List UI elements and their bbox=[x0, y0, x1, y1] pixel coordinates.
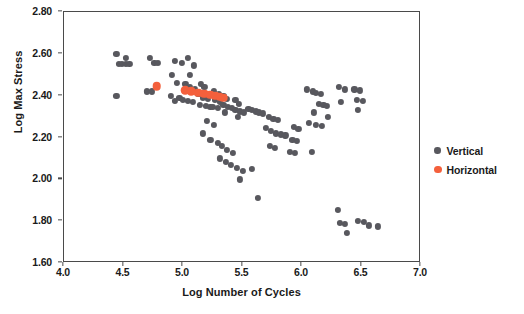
x-tick-mark bbox=[62, 262, 63, 266]
legend-label: Horizontal bbox=[447, 164, 497, 176]
data-point-vertical bbox=[249, 166, 255, 172]
data-point-vertical bbox=[360, 98, 366, 104]
data-point-vertical bbox=[295, 126, 301, 132]
data-point-vertical bbox=[191, 62, 197, 68]
data-point-vertical bbox=[275, 117, 281, 123]
x-tick-label: 4.0 bbox=[56, 266, 70, 278]
data-point-vertical bbox=[172, 58, 178, 64]
x-tick-mark bbox=[122, 262, 123, 266]
data-point-vertical bbox=[311, 109, 317, 115]
data-point-vertical bbox=[344, 230, 350, 236]
data-point-vertical bbox=[294, 138, 300, 144]
data-point-vertical bbox=[306, 120, 312, 126]
data-point-vertical bbox=[155, 60, 161, 66]
data-point-vertical bbox=[239, 168, 245, 174]
data-point-vertical bbox=[172, 98, 178, 104]
data-point-vertical bbox=[325, 113, 331, 119]
data-point-vertical bbox=[342, 86, 348, 92]
legend-marker-icon bbox=[434, 147, 441, 154]
data-point-vertical bbox=[204, 118, 210, 124]
data-point-vertical bbox=[355, 107, 361, 113]
data-point-vertical bbox=[235, 113, 241, 119]
data-point-vertical bbox=[292, 150, 298, 156]
y-axis-title: Log Max Stress bbox=[12, 22, 24, 162]
data-point-vertical bbox=[222, 109, 228, 115]
x-tick-mark bbox=[419, 262, 420, 266]
x-tick-label: 4.5 bbox=[116, 266, 130, 278]
data-point-vertical bbox=[189, 99, 195, 105]
x-tick-mark bbox=[300, 262, 301, 266]
y-tick-label: 2.60 bbox=[32, 47, 52, 59]
data-point-vertical bbox=[207, 136, 213, 142]
data-point-vertical bbox=[126, 61, 132, 67]
x-tick-label: 6.0 bbox=[294, 266, 308, 278]
data-point-horizontal bbox=[219, 93, 228, 102]
data-point-vertical bbox=[338, 99, 344, 105]
data-point-vertical bbox=[123, 55, 129, 61]
data-point-vertical bbox=[185, 55, 191, 61]
x-axis-tick-labels: 4.04.55.05.56.06.57.0 bbox=[0, 266, 524, 286]
data-point-vertical bbox=[255, 195, 261, 201]
y-tick-mark bbox=[58, 136, 62, 137]
x-tick-mark bbox=[360, 262, 361, 266]
data-point-vertical bbox=[335, 207, 341, 213]
chart-legend: VerticalHorizontal bbox=[434, 141, 497, 179]
scatter-chart: 1.601.802.002.202.402.602.80 Log Max Str… bbox=[0, 0, 524, 314]
data-point-vertical bbox=[237, 176, 243, 182]
data-point-vertical bbox=[272, 145, 278, 151]
x-tick-label: 5.5 bbox=[235, 266, 249, 278]
y-tick-mark bbox=[58, 52, 62, 53]
data-point-vertical bbox=[282, 132, 288, 138]
x-tick-mark bbox=[241, 262, 242, 266]
data-point-vertical bbox=[113, 51, 119, 57]
data-point-vertical bbox=[174, 80, 180, 86]
legend-marker-icon bbox=[434, 166, 442, 174]
data-point-vertical bbox=[200, 130, 206, 136]
data-point-vertical bbox=[187, 72, 193, 78]
x-tick-label: 7.0 bbox=[413, 266, 427, 278]
y-tick-mark bbox=[58, 178, 62, 179]
y-tick-label: 2.40 bbox=[32, 89, 52, 101]
data-point-vertical bbox=[169, 72, 175, 78]
y-tick-label: 1.80 bbox=[32, 214, 52, 226]
y-tick-label: 2.00 bbox=[32, 172, 52, 184]
data-point-vertical bbox=[319, 123, 325, 129]
y-tick-label: 2.80 bbox=[32, 5, 52, 17]
data-point-vertical bbox=[342, 221, 348, 227]
data-point-vertical bbox=[113, 93, 119, 99]
data-point-vertical bbox=[308, 149, 314, 155]
y-tick-mark bbox=[58, 220, 62, 221]
data-point-vertical bbox=[230, 150, 236, 156]
legend-item-horizontal[interactable]: Horizontal bbox=[434, 160, 497, 179]
data-point-vertical bbox=[366, 222, 372, 228]
x-axis-title: Log Number of Cycles bbox=[63, 286, 420, 298]
data-point-vertical bbox=[179, 60, 185, 66]
data-point-vertical bbox=[236, 101, 242, 107]
data-point-vertical bbox=[211, 122, 217, 128]
y-tick-label: 2.20 bbox=[32, 131, 52, 143]
legend-item-vertical[interactable]: Vertical bbox=[434, 141, 497, 160]
data-point-vertical bbox=[318, 90, 324, 96]
x-tick-label: 6.5 bbox=[354, 266, 368, 278]
legend-label: Vertical bbox=[447, 145, 484, 157]
x-tick-mark bbox=[181, 262, 182, 266]
y-tick-mark bbox=[58, 10, 62, 11]
y-tick-mark bbox=[58, 94, 62, 95]
data-point-horizontal bbox=[153, 82, 162, 91]
plot-area bbox=[63, 11, 420, 262]
data-point-vertical bbox=[324, 103, 330, 109]
data-point-vertical bbox=[357, 87, 363, 93]
data-point-vertical bbox=[375, 223, 381, 229]
x-tick-label: 5.0 bbox=[175, 266, 189, 278]
